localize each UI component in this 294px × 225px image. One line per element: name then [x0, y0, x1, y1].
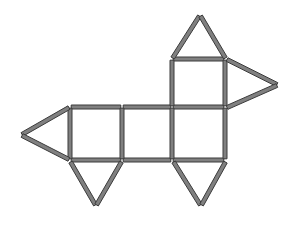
matchstick-ear-triangle-left[interactable]: [171, 15, 201, 59]
matchstick-head-square-right[interactable]: [223, 60, 227, 106]
matchstick-figure: [0, 0, 294, 225]
matchstick-group: [21, 15, 278, 206]
matchstick-body-vertical-2[interactable]: [120, 108, 124, 159]
matchstick-body-vertical-3[interactable]: [170, 108, 174, 159]
matchstick-body-bottom-middle[interactable]: [123, 158, 171, 162]
matchstick-head-square-left[interactable]: [170, 60, 174, 106]
matchstick-body-bottom-right[interactable]: [173, 158, 224, 162]
matchstick-nose-triangle-upper[interactable]: [21, 106, 70, 136]
matchstick-body-vertical-4[interactable]: [223, 108, 227, 159]
matchstick-snout-triangle-upper[interactable]: [226, 58, 278, 87]
matchstick-head-square-top[interactable]: [173, 57, 224, 61]
matchstick-body-top-middle[interactable]: [123, 105, 171, 109]
matchstick-body-top-right[interactable]: [173, 105, 224, 109]
matchstick-ear-triangle-right[interactable]: [199, 15, 227, 59]
matchstick-front-leg-right[interactable]: [95, 161, 123, 206]
matchstick-body-top-left[interactable]: [71, 105, 121, 109]
matchstick-body-vertical-1[interactable]: [68, 108, 72, 159]
matchstick-front-leg-left[interactable]: [69, 161, 97, 206]
matchstick-snout-triangle-lower[interactable]: [226, 84, 277, 110]
puzzle-canvas: [0, 0, 294, 225]
matchstick-hind-leg-right[interactable]: [200, 161, 227, 206]
matchstick-hind-leg-left[interactable]: [172, 161, 202, 206]
matchstick-body-bottom-left[interactable]: [71, 158, 121, 162]
matchstick-nose-triangle-lower[interactable]: [21, 134, 70, 161]
